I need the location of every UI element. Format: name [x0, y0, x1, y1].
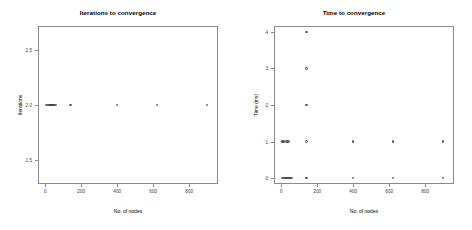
x-tick-iterations: [153, 184, 154, 187]
data-point: [392, 140, 395, 143]
y-tick-time: [271, 142, 274, 143]
plot-title-time: Time to convergence: [236, 9, 472, 16]
y-tick-time: [271, 105, 274, 106]
y-tick-time: [271, 32, 274, 33]
x-tick-label-time: 400: [349, 189, 357, 194]
plot-panel-iterations: Iterations to convergence 1.52.02.502004…: [0, 0, 236, 230]
x-tick-time: [425, 184, 426, 187]
x-tick-label-iterations: 200: [77, 189, 85, 194]
x-tick-label-time: 200: [313, 189, 321, 194]
x-tick-iterations: [117, 184, 118, 187]
y-tick-label-iterations: 2.5: [16, 48, 32, 53]
x-tick-time: [317, 184, 318, 187]
data-point: [305, 140, 308, 143]
plot-title-iterations: Iterations to convergence: [0, 9, 236, 16]
y-tick-label-time: 4: [252, 29, 268, 34]
y-axis-title-iterations: Iterations: [17, 95, 23, 116]
data-point: [287, 140, 290, 143]
x-tick-iterations: [81, 184, 82, 187]
x-tick-label-iterations: 600: [149, 189, 157, 194]
x-tick-label-time: 0: [280, 189, 283, 194]
data-point: [305, 31, 308, 34]
y-tick-label-time: 3: [252, 66, 268, 71]
y-tick-label-time: 0: [252, 176, 268, 181]
x-tick-iterations: [45, 184, 46, 187]
y-axis-title-time: Time (ms): [253, 94, 259, 116]
x-tick-label-iterations: 0: [44, 189, 47, 194]
data-point: [305, 67, 308, 70]
y-tick-iterations: [35, 160, 38, 161]
plot-panel-time: Time to convergence 012340200400600800 N…: [236, 0, 472, 230]
y-tick-time: [271, 68, 274, 69]
y-tick-time: [271, 178, 274, 179]
y-tick-label-iterations: 1.5: [16, 157, 32, 162]
y-tick-label-time: 1: [252, 139, 268, 144]
y-tick-iterations: [35, 105, 38, 106]
x-tick-time: [281, 184, 282, 187]
x-axis-title-time: No. of nodes: [350, 208, 378, 214]
figure-canvas: Iterations to convergence 1.52.02.502004…: [0, 0, 472, 230]
x-tick-time: [353, 184, 354, 187]
plot-frame-time: [274, 26, 454, 184]
x-tick-label-time: 800: [421, 189, 429, 194]
x-tick-label-time: 600: [385, 189, 393, 194]
x-tick-label-iterations: 800: [185, 189, 193, 194]
x-tick-iterations: [189, 184, 190, 187]
x-axis-title-iterations: No. of nodes: [114, 208, 142, 214]
x-tick-label-iterations: 400: [113, 189, 121, 194]
plot-frame-iterations: [38, 26, 218, 184]
x-tick-time: [389, 184, 390, 187]
y-tick-iterations: [35, 50, 38, 51]
